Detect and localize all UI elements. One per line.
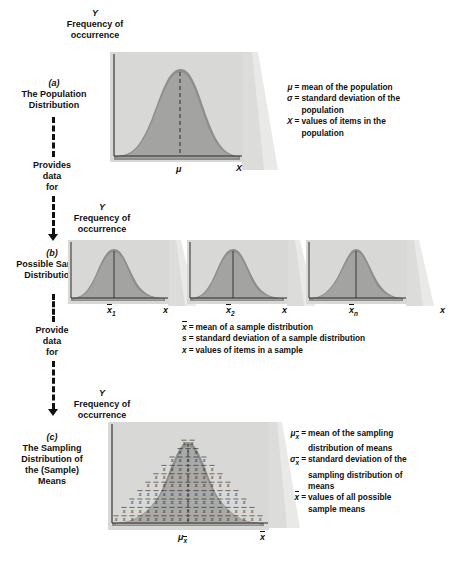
- panel-a-y-axis-label: Y Frequency of occurrence: [55, 8, 135, 41]
- legend-c-sym0-sub: x: [296, 433, 300, 440]
- legend-b-eq-1: =: [189, 333, 196, 344]
- y-symbol: Y: [55, 8, 135, 19]
- panel-a-chart: [110, 52, 243, 162]
- panel-b-y-axis-label: Y Frequency of occurrence: [62, 202, 142, 235]
- panel-b-y-line2: occurrence: [62, 224, 142, 235]
- panel-c-caption: (c) The Sampling Distribution of the (Sa…: [4, 432, 100, 487]
- flow-1-line2: data: [14, 171, 90, 182]
- legend-c-desc-1c: means: [308, 481, 407, 492]
- legend-c-desc-0b: distribution of means: [308, 443, 407, 454]
- flow-2-line1: Provide: [14, 325, 90, 336]
- legend-b-sym0-text: x: [182, 322, 187, 332]
- legend-a-eq-1: =: [295, 93, 302, 104]
- panel-c-y-line1: Frequency of: [62, 399, 142, 410]
- panel-b3-tick-sub: n: [354, 310, 358, 317]
- legend-c-symbol-sigma: σx: [290, 454, 301, 469]
- legend-b-symbol-s: s: [182, 333, 189, 344]
- legend-c-desc-1b: sampling distribution of: [308, 470, 407, 481]
- panel-b1-x-axis-label: x: [163, 305, 168, 315]
- panel-b1-tick-symbol: x: [107, 305, 112, 315]
- legend-b-eq-2: =: [189, 345, 196, 356]
- legend-a-eq-0: =: [295, 82, 302, 93]
- panel-b1-chart: [68, 240, 169, 304]
- panel-b3-tick-symbol: x: [349, 305, 354, 315]
- legend-a-eq-2: =: [295, 116, 302, 127]
- panel-c-caption-line1: The Sampling: [4, 443, 100, 454]
- legend-c-symbol-xbar: x: [290, 492, 301, 503]
- flow-arrow-2-head: [48, 409, 58, 416]
- legend-b-symbol-xbar: x: [182, 322, 189, 333]
- flow-arrow-1-upper: [52, 117, 55, 157]
- panel-a-center-tick: μ: [176, 164, 181, 174]
- legend-b-desc-2: values of items in a sample: [195, 345, 365, 356]
- legend-c-desc-0a: mean of the sampling: [308, 428, 407, 443]
- flow-arrow-1-lower: [52, 196, 55, 234]
- legend-c-sym2-text: x: [295, 492, 300, 502]
- flow-label-1: Provides data for: [14, 160, 90, 193]
- panel-b2-center-tick: x2: [226, 305, 235, 317]
- legend-b-symbol-x: x: [182, 345, 189, 356]
- panel-a-x-axis-label: X: [236, 163, 242, 173]
- legend-c-desc-2b: sample means: [308, 504, 407, 515]
- panel-b3-shadow: [406, 240, 436, 316]
- legend-a-desc-0: mean of the population: [301, 82, 400, 93]
- flow-1-line3: for: [14, 182, 90, 193]
- panel-b2-tick-sub: 2: [231, 310, 235, 317]
- legend-a-symbol-mu: μ: [287, 82, 295, 93]
- legend-b-eq-0: =: [189, 322, 196, 333]
- panel-c-chart: xxxxxxxxxxxxxxxxxxxxxxxxxxxxxxxxxxxxxxxx…: [108, 422, 269, 530]
- panel-c-y-axis-label: Y Frequency of occurrence: [62, 388, 142, 421]
- flow-1-line1: Provides: [14, 160, 90, 171]
- panel-b-y-symbol: Y: [62, 202, 142, 213]
- legend-a-symbol-x: X: [287, 116, 295, 127]
- panel-b1-center-tick: x1: [107, 305, 116, 317]
- flow-arrow-2-lower: [52, 361, 55, 409]
- panel-c-caption-line4: Means: [4, 476, 100, 487]
- legend-a-desc-1b: population: [301, 105, 400, 116]
- panel-a-caption: (a) The Population Distribution: [8, 78, 100, 111]
- flow-2-line2: data: [14, 336, 90, 347]
- panel-c-caption-line3: the (Sample): [4, 465, 100, 476]
- panel-c-legend: μx = mean of the sampling distribution o…: [290, 428, 470, 515]
- panel-c-center-tick: μx: [178, 532, 187, 544]
- panel-a-caption-line2: Distribution: [8, 100, 100, 111]
- panel-b3-chart: [306, 240, 407, 304]
- panel-a-caption-line1: The Population: [8, 89, 100, 100]
- panel-a-tag: (a): [8, 78, 100, 89]
- legend-c-sym1-sub: x: [296, 459, 300, 466]
- panel-b3-center-tick: xn: [349, 305, 358, 317]
- panel-b-y-line1: Frequency of: [62, 213, 142, 224]
- flow-arrow-1-head: [48, 234, 58, 241]
- panel-b2-chart: [187, 240, 288, 304]
- panel-a-shadow: [242, 52, 280, 181]
- panel-b2-tick-symbol: x: [226, 305, 231, 315]
- panel-b3-x-axis-label: x: [440, 305, 445, 315]
- panel-c-xaxis-text: x: [260, 532, 265, 542]
- panel-c-x-axis-label: x: [260, 532, 265, 542]
- legend-c-desc-1a: standard deviation of the: [308, 454, 407, 469]
- panel-b2-x-axis-label: x: [282, 305, 287, 315]
- panel-c-tick-sub: x: [183, 537, 187, 544]
- flow-arrow-2-upper: [52, 294, 55, 322]
- panel-a-legend: μ = mean of the population σ = standard …: [287, 82, 467, 139]
- panel-c-y-line2: occurrence: [62, 410, 142, 421]
- legend-c-symbol-mu: μx: [290, 428, 301, 443]
- legend-c-eq-2: =: [301, 492, 308, 503]
- legend-b-desc-1: standard deviation of a sample distribut…: [195, 333, 365, 344]
- legend-a-desc-2b: population: [301, 128, 400, 139]
- legend-c-desc-2a: values of all possible: [308, 492, 407, 503]
- panel-c-y-symbol: Y: [62, 388, 142, 399]
- legend-a-desc-2a: values of items in the: [301, 116, 400, 127]
- panel-b1-tick-sub: 1: [112, 310, 116, 317]
- flow-label-2: Provide data for: [14, 325, 90, 358]
- legend-c-eq-0: =: [301, 428, 308, 443]
- legend-c-eq-1: =: [301, 454, 308, 469]
- y-desc-line2: occurrence: [55, 30, 135, 41]
- legend-b-desc-0: mean of a sample distribution: [195, 322, 365, 333]
- panel-b-legend: x = mean of a sample distribution s = st…: [182, 322, 452, 356]
- panel-c-tag: (c): [4, 432, 100, 443]
- legend-a-symbol-sigma: σ: [287, 93, 295, 104]
- y-desc-line1: Frequency of: [55, 19, 135, 30]
- panel-c-caption-line2: Distribution of: [4, 454, 100, 465]
- legend-a-desc-1a: standard deviation of the: [301, 93, 400, 104]
